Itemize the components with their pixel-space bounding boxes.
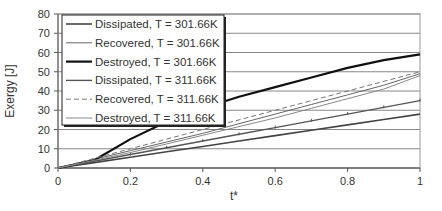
x-tick-label: 1: [417, 175, 423, 187]
legend-label: Destroyed, T = 301.66K: [95, 56, 217, 68]
legend-label: Destroyed, T = 311.66K: [95, 112, 216, 124]
y-tick-label: 60: [38, 47, 50, 59]
x-tick-label: 0.6: [268, 175, 283, 187]
x-tick-label: 0: [55, 175, 61, 187]
y-tick-label: 10: [38, 143, 50, 155]
y-tick-label: 0: [44, 162, 50, 174]
y-tick-label: 40: [38, 85, 50, 97]
y-tick-label: 80: [38, 8, 50, 20]
x-tick-label: 0.4: [195, 175, 210, 187]
y-tick-label: 30: [38, 104, 50, 116]
x-axis-label: t*: [230, 189, 238, 203]
legend-label: Dissipated, T = 311.66K: [95, 74, 217, 86]
legend-label: Recovered, T = 301.66K: [95, 37, 220, 49]
x-tick-label: 0.8: [340, 175, 355, 187]
legend-box: [62, 15, 224, 125]
y-tick-label: 20: [38, 124, 50, 136]
plot-area: 0102030405060708000.20.40.60.81 Dissipat…: [0, 0, 442, 211]
y-axis-label: Exergy [J]: [3, 64, 17, 117]
y-tick-label: 70: [38, 27, 50, 39]
legend: Dissipated, T = 301.66KRecovered, T = 30…: [62, 15, 226, 127]
legend-label: Recovered, T = 311.66K: [95, 93, 219, 105]
x-tick-label: 0.2: [123, 175, 138, 187]
exergy-line-chart: 0102030405060708000.20.40.60.81 Dissipat…: [0, 0, 442, 211]
legend-label: Dissipated, T = 301.66K: [95, 18, 218, 30]
y-tick-label: 50: [38, 66, 50, 78]
